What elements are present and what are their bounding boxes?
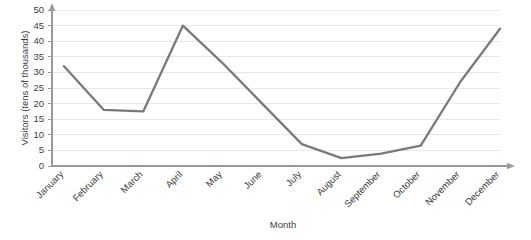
chart-canvas: 05101520253035404550 JanuaryFebruaryMarc…: [0, 0, 531, 240]
y-axis-tick-label: 40: [33, 35, 44, 46]
y-axis-tick-label: 50: [33, 4, 44, 15]
line-chart: 05101520253035404550 JanuaryFebruaryMarc…: [0, 0, 531, 240]
x-axis-tick-label: January: [34, 168, 66, 200]
y-axis-tick-label: 10: [33, 129, 44, 140]
y-axis-tick-label: 25: [33, 82, 44, 93]
x-axis-title: Month: [270, 219, 296, 230]
visitors-line-series: [64, 26, 500, 159]
y-axis-title: Visitors (tens of thousands): [19, 31, 30, 146]
y-axis-tick-labels: 05101520253035404550: [33, 4, 44, 171]
x-axis-tick-label: March: [118, 169, 144, 195]
y-axis-arrow-icon: [49, 3, 55, 11]
x-axis-tick-labels: JanuaryFebruaryMarchAprilMayJuneJulyAugu…: [34, 168, 502, 209]
x-axis-tick-label: May: [203, 168, 224, 189]
x-axis-tick-label: October: [390, 169, 422, 201]
y-axis-tick-label: 5: [39, 144, 44, 155]
x-axis-arrow-icon: [507, 163, 515, 169]
y-axis-tick-label: 45: [33, 20, 44, 31]
y-axis-tick-label: 30: [33, 66, 44, 77]
x-axis-tick-label: February: [70, 168, 105, 203]
x-axis-tick-label: April: [163, 169, 184, 190]
y-axis-tick-label: 15: [33, 113, 44, 124]
x-axis-tick-label: December: [463, 169, 502, 208]
y-axis-tick-label: 0: [39, 160, 44, 171]
x-axis-tick-label: July: [283, 168, 303, 188]
x-axis-tick-label: June: [241, 169, 263, 191]
y-axis-tick-label: 35: [33, 51, 44, 62]
y-axis-tick-label: 20: [33, 98, 44, 109]
gridlines: [52, 10, 500, 166]
y-axis-ticks: [48, 10, 52, 166]
x-axis-tick-label: September: [342, 169, 383, 210]
x-axis-tick-label: August: [314, 168, 343, 197]
x-axis-tick-label: November: [423, 169, 462, 208]
